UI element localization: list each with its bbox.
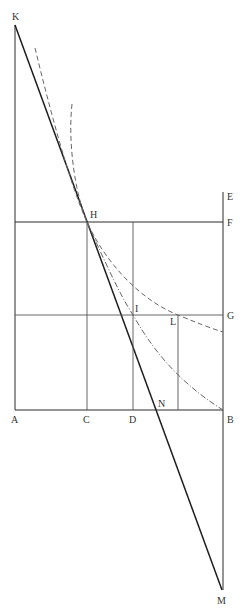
label-L: L xyxy=(170,316,176,327)
dashdot-curve-HIB xyxy=(87,222,223,410)
label-F: F xyxy=(227,217,233,228)
label-H: H xyxy=(90,209,97,220)
geometric-diagram: K H E F I L G A C D N B M xyxy=(0,0,247,615)
label-M: M xyxy=(217,595,226,606)
label-I: I xyxy=(135,303,138,314)
label-D: D xyxy=(129,414,136,425)
label-G: G xyxy=(227,310,234,321)
label-C: C xyxy=(83,414,90,425)
label-A: A xyxy=(11,414,19,425)
steep-dashed-curve xyxy=(71,104,87,222)
dashed-curve-HL xyxy=(35,48,223,332)
label-N: N xyxy=(158,398,165,409)
label-B: B xyxy=(227,414,234,425)
label-E: E xyxy=(227,191,233,202)
line-KM xyxy=(15,25,222,590)
label-K: K xyxy=(12,11,20,22)
